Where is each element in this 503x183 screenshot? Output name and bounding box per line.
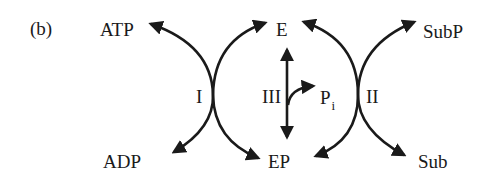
arc-ep-e-left-arrow bbox=[213, 23, 265, 158]
reaction-label-i: I bbox=[196, 86, 202, 107]
pi-release-arrow bbox=[288, 86, 313, 105]
label-sub: Sub bbox=[418, 151, 448, 172]
label-subp: SubP bbox=[423, 21, 463, 42]
panel-label: (b) bbox=[30, 18, 52, 40]
label-atp: ATP bbox=[100, 19, 134, 40]
reaction-cycle-diagram: (b) ATP ADP E EP SubP Sub Pi I III II bbox=[0, 0, 503, 183]
label-pi-subscript: i bbox=[332, 98, 336, 113]
label-ep: EP bbox=[268, 151, 290, 172]
arc-e-ep-right-arrow bbox=[304, 22, 358, 156]
reaction-label-iii: III bbox=[262, 86, 281, 107]
label-pi: Pi bbox=[320, 87, 336, 113]
label-pi-main: P bbox=[320, 87, 331, 108]
reaction-label-ii: II bbox=[366, 86, 379, 107]
arc-adp-atp-arrow bbox=[151, 24, 213, 152]
label-e: E bbox=[276, 19, 288, 40]
label-adp: ADP bbox=[103, 151, 141, 172]
